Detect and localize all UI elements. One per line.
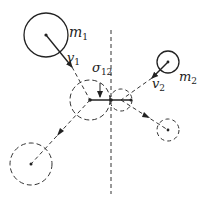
trajectory-m1-out-arrow bbox=[57, 128, 64, 136]
trajectory-m2-in bbox=[121, 78, 152, 100]
label-v1: v1 bbox=[67, 50, 80, 67]
trajectory-m1-in bbox=[72, 67, 90, 100]
collision-diagram: m1 v1 σ12 m2 v2 bbox=[0, 0, 197, 202]
label-m1: m1 bbox=[69, 24, 88, 42]
particle-m2-final-center bbox=[167, 129, 170, 132]
trajectory-m2-out-arrow bbox=[142, 112, 150, 118]
label-m2: m2 bbox=[179, 69, 197, 86]
particle-m1-final-center bbox=[30, 163, 33, 166]
label-v2: v2 bbox=[152, 76, 165, 93]
label-sigma12: σ12 bbox=[92, 60, 112, 77]
m2-collision-center bbox=[130, 99, 133, 102]
contact-point bbox=[109, 98, 113, 102]
